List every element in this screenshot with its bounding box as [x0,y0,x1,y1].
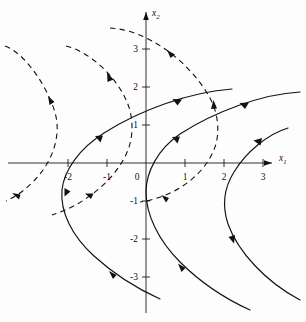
trajectory-solid-3-arrow-2 [229,235,236,244]
trajectory-solid-1-arrow [173,99,183,106]
trajectory-solid-3 [225,128,300,300]
x-tick-label--2: -2 [64,172,72,182]
y-axis-label-subscript: 2 [156,13,160,20]
trajectory-solid-1-arrow-4 [109,271,117,279]
trajectory-dashed-3-arrow-3 [162,195,170,203]
y-tick-label-1: 1 [133,120,138,130]
trajectory-dashed-2-arrow [107,73,114,83]
trajectory-solid-2-arrow [240,103,250,110]
trajectory-dashed-2 [52,46,132,215]
y-tick-label-2: 2 [133,82,138,92]
x-axis-label: x1 [278,153,287,165]
trajectory-dashed-3 [110,28,218,202]
x-tick-label-3: 3 [261,172,266,182]
x-tick-label--1: -1 [103,172,111,182]
phase-portrait-figure: -2 -1 0 1 2 3 3 2 1 -1 -2 -3 x1 x2 [0,0,306,322]
phase-portrait-svg: -2 -1 0 1 2 3 3 2 1 -1 -2 -3 x1 x2 [0,0,306,322]
y-tick-label--3: -3 [130,272,138,282]
trajectory-dashed-3-arrow [167,50,175,58]
y-tick-label--2: -2 [130,234,138,244]
trajectory-dashed-1 [5,46,57,201]
x-tick-label-2: 2 [222,172,227,182]
dashed-trajectories-group [5,28,218,215]
trajectory-solid-2-arrow-3 [178,264,186,273]
trajectory-dashed-1-arrow [48,96,55,105]
y-axis-label: x2 [151,8,160,20]
x-tick-labels: -2 -1 0 1 2 3 [64,172,266,182]
solid-trajectories-group [62,89,300,310]
trajectory-solid-1-arrow-3 [65,188,71,197]
x-tick-label-1: 1 [183,172,188,182]
y-tick-label-3: 3 [133,44,138,54]
x-axis-arrowhead [264,160,272,166]
y-tick-label--1: -1 [130,196,138,206]
trajectory-solid-2 [146,92,300,310]
x-axis-label-subscript: 1 [283,158,286,165]
y-axis-arrowhead [143,12,149,20]
trajectory-solid-2-arrow-2 [172,137,180,144]
x-tick-label-0: 0 [135,172,140,182]
